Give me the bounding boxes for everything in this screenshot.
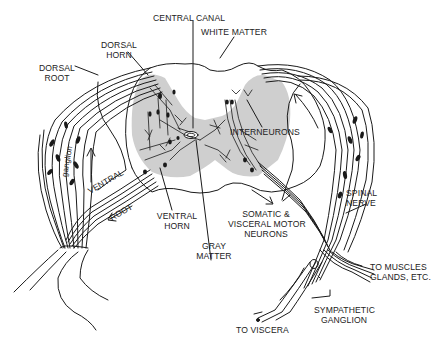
label-interneurons: INTERNEURONS	[230, 127, 300, 137]
leader-dorsal-root	[75, 66, 98, 75]
label-central-canal: CENTRAL CANAL	[153, 13, 225, 23]
label-gray-matter-line1: GRAY	[194, 241, 234, 251]
label-somatic-visceral-motor-neurons: SOMATIC & VISCERAL MOTOR NEURONS	[228, 209, 304, 239]
label-dorsal-horn-line1: DORSAL	[101, 40, 137, 50]
label-somatic-line3: NEURONS	[228, 229, 304, 239]
label-to-muscles-line1: TO MUSCLES	[370, 262, 431, 272]
label-dorsal-root: DORSAL ROOT	[38, 63, 76, 83]
label-dorsal-root-line1: DORSAL	[38, 63, 76, 73]
label-ventral-horn-line2: HORN	[156, 221, 198, 231]
label-sympathetic-ganglion: SYMPATHETIC GANGLION	[314, 305, 374, 325]
label-dorsal-horn-line2: HORN	[101, 50, 137, 60]
label-white-matter: WHITE MATTER	[201, 27, 267, 37]
label-sympathetic-line1: SYMPATHETIC	[314, 305, 374, 315]
label-to-muscles: TO MUSCLES GLANDS, ETC.	[370, 262, 431, 282]
label-spinal-nerve-line1: SPINAL	[346, 188, 377, 198]
label-to-viscera: TO VISCERA	[236, 325, 289, 335]
label-somatic-line1: SOMATIC &	[228, 209, 304, 219]
label-ventral-horn-line1: VENTRAL	[156, 211, 198, 221]
label-somatic-line2: VISCERAL MOTOR	[228, 219, 304, 229]
leader-white-matter	[220, 37, 234, 58]
label-gray-matter: GRAY MATTER	[194, 241, 234, 261]
label-spinal-nerve: SPINAL NERVE	[346, 188, 377, 208]
label-gray-matter-line2: MATTER	[194, 251, 234, 261]
label-sympathetic-line2: GANGLION	[314, 315, 374, 325]
label-to-muscles-line2: GLANDS, ETC.	[370, 272, 431, 282]
label-dorsal-horn: DORSAL HORN	[101, 40, 137, 60]
label-ventral-horn: VENTRAL HORN	[156, 211, 198, 231]
label-spinal-nerve-line2: NERVE	[346, 198, 377, 208]
label-dorsal-root-line2: ROOT	[38, 73, 76, 83]
